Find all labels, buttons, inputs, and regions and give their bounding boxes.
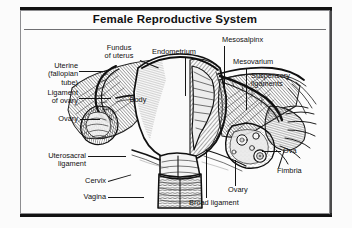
label-endometrium: Endometrium bbox=[142, 48, 206, 56]
leader-ovary-left bbox=[80, 119, 100, 120]
label-suspensory-ligaments: Suspensory ligaments bbox=[251, 72, 290, 89]
label-vagina: Vagina bbox=[60, 193, 106, 201]
leader-mesosalpinx bbox=[224, 46, 225, 88]
leader-ova bbox=[262, 151, 281, 152]
leader-vagina bbox=[108, 197, 144, 198]
leader-uterosacral-ligament bbox=[88, 156, 126, 157]
label-fimbria: Fimbria bbox=[277, 167, 302, 175]
label-cervix: Cervix bbox=[60, 177, 106, 185]
leader-endometrium bbox=[185, 58, 186, 96]
label-ovary-right: Ovary bbox=[228, 186, 248, 194]
figure-root: Female Reproductive System bbox=[0, 0, 352, 228]
leader-ligament-of-ovary bbox=[79, 98, 111, 99]
label-ova: Ova bbox=[283, 147, 297, 155]
label-body: Body bbox=[120, 96, 156, 104]
label-mesovarium: Mesovarium bbox=[233, 58, 273, 66]
label-uterine-tube: Uterine (fallopian tube) bbox=[20, 62, 78, 87]
leader-mesovarium bbox=[246, 68, 247, 110]
label-uterosacral-ligament: Uterosacral ligament bbox=[18, 152, 86, 169]
label-ovary-left: Ovary bbox=[20, 115, 78, 123]
label-ligament-of-ovary: Ligament of ovary bbox=[20, 89, 78, 106]
leader-ovary-right bbox=[235, 160, 236, 186]
leader-broad-ligament bbox=[206, 150, 207, 198]
label-fundus-of-uterus: Fundus of uterus bbox=[95, 44, 143, 61]
label-broad-ligament: Broad ligament bbox=[189, 199, 239, 207]
label-mesosalpinx: Mesosalpinx bbox=[222, 36, 263, 44]
leader-uterine-tube bbox=[79, 71, 105, 72]
